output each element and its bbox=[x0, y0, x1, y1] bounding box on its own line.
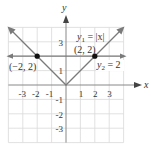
point-right-label: (2, 2) bbox=[74, 44, 96, 56]
svg-text:-3: -3 bbox=[19, 89, 27, 99]
graph-canvas: x y -3 -2 -1 1 2 3 3 1 -1 -2 -3 (−2, 2) … bbox=[0, 0, 151, 149]
point-left-label: (−2, 2) bbox=[9, 61, 36, 73]
axes bbox=[8, 22, 136, 143]
svg-text:-1: -1 bbox=[56, 95, 64, 105]
x-axis-label: x bbox=[143, 79, 149, 90]
x-tick-labels: -3 -2 -1 1 2 3 bbox=[19, 89, 113, 99]
svg-text:3: 3 bbox=[59, 38, 64, 48]
svg-text:2: 2 bbox=[93, 89, 98, 99]
x-axis-arrow-icon bbox=[134, 82, 142, 88]
svg-text:3: 3 bbox=[107, 89, 112, 99]
graph-figure: x y -3 -2 -1 1 2 3 3 1 -1 -2 -3 (−2, 2) … bbox=[0, 0, 151, 149]
svg-text:1: 1 bbox=[59, 66, 64, 76]
y-tick-labels: 3 1 -1 -2 -3 bbox=[56, 38, 64, 134]
y-axis-label: y bbox=[61, 2, 67, 13]
svg-text:-2: -2 bbox=[32, 89, 40, 99]
svg-text:-2: -2 bbox=[56, 110, 64, 120]
svg-text:-3: -3 bbox=[56, 124, 64, 134]
y-axis-arrow-icon bbox=[63, 15, 69, 23]
svg-text:-1: -1 bbox=[46, 89, 54, 99]
svg-text:1: 1 bbox=[79, 89, 84, 99]
arrow-left-icon bbox=[7, 54, 14, 59]
point-left bbox=[35, 54, 40, 59]
